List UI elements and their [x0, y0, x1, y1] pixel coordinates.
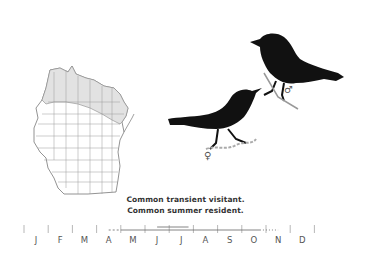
female-bird-silhouette: [168, 88, 262, 149]
month-label: J: [155, 235, 159, 245]
seasonal-occurrence-chart: JFMAMJJASOND: [0, 222, 371, 246]
month-label: J: [179, 235, 183, 245]
bird-illustration: [160, 25, 360, 170]
month-label: D: [299, 235, 306, 245]
status-line-transient: Common transient visitant.: [0, 195, 371, 204]
wisconsin-range-map: [28, 62, 143, 202]
female-perch: [206, 139, 256, 149]
month-label: M: [81, 235, 88, 245]
month-label: N: [275, 235, 281, 245]
male-symbol: ♂: [284, 84, 293, 95]
male-bird-silhouette: [250, 33, 344, 101]
status-line-summer: Common summer resident.: [0, 206, 371, 215]
month-label: S: [227, 235, 232, 245]
month-label: M: [129, 235, 136, 245]
month-label: A: [106, 235, 112, 245]
month-label: J: [34, 235, 38, 245]
female-symbol: ♀: [204, 150, 211, 161]
month-label: O: [251, 235, 258, 245]
month-label: F: [58, 235, 63, 245]
month-label: A: [203, 235, 209, 245]
